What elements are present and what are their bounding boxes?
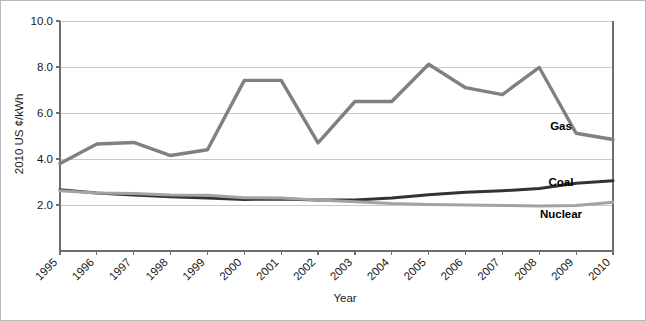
x-tick-label: 1996 — [70, 256, 97, 283]
x-axis-title: Year — [333, 292, 356, 304]
x-tick-label: 1997 — [107, 256, 134, 283]
series-label-gas: Gas — [550, 120, 572, 132]
data-series-group — [60, 64, 613, 206]
y-tick-label: 8.0 — [37, 61, 53, 73]
x-tick-label: 2001 — [254, 256, 281, 283]
y-tick-label: 2.0 — [37, 199, 53, 211]
x-tick-label: 1999 — [180, 256, 207, 283]
x-tick-label: 1998 — [143, 256, 170, 283]
y-tick-label: 10.0 — [31, 15, 53, 27]
series-line-gas — [60, 64, 613, 163]
x-tick-label: 2009 — [549, 256, 576, 283]
series-line-coal — [60, 181, 613, 200]
gridlines-group — [60, 21, 613, 205]
x-tick-label: 2002 — [291, 256, 318, 283]
x-tick-label: 2006 — [438, 256, 465, 283]
y-tick-label: 4.0 — [37, 153, 53, 165]
x-tick-label: 2003 — [328, 256, 355, 283]
chart-figure: 2.04.06.08.010.0 19951996199719981999200… — [0, 0, 646, 321]
y-axis-tick-labels: 2.04.06.08.010.0 — [31, 15, 60, 211]
x-tick-label: 2010 — [586, 256, 613, 283]
line-chart-canvas: 2.04.06.08.010.0 19951996199719981999200… — [1, 1, 646, 321]
y-tick-label: 6.0 — [37, 107, 53, 119]
series-label-nuclear: Nuclear — [540, 208, 583, 220]
x-tick-label: 2007 — [475, 256, 502, 283]
x-tick-label: 2005 — [401, 256, 428, 283]
x-tick-label: 2000 — [217, 256, 244, 283]
series-line-nuclear — [60, 191, 613, 206]
x-tick-label: 2004 — [365, 256, 392, 283]
x-tick-label: 2008 — [512, 256, 539, 283]
x-axis-tick-labels: 1995199619971998199920002001200220032004… — [33, 251, 613, 283]
x-tick-label: 1995 — [33, 256, 60, 283]
plot-axes — [60, 21, 613, 251]
series-label-coal: Coal — [549, 176, 574, 188]
y-axis-title: 2010 US ¢/kWh — [13, 94, 25, 175]
